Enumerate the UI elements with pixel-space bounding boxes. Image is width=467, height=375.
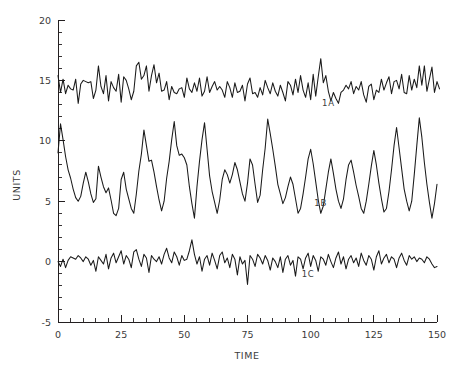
x-tick-label: 50: [178, 329, 190, 340]
figure-container: 0255075100125150 -505101520 1A1B1C UNITS…: [0, 0, 467, 375]
x-axis-ticks: [58, 315, 437, 322]
x-tick-label: 25: [115, 329, 127, 340]
series-label-1b: 1B: [314, 198, 327, 208]
series-label-1a: 1A: [322, 98, 335, 108]
y-axis-tick-labels: -505101520: [39, 15, 51, 328]
y-tick-label: 15: [39, 75, 51, 86]
x-tick-label: 100: [302, 329, 320, 340]
series-lines: [58, 59, 440, 285]
x-axis-tick-labels: 0255075100125150: [55, 329, 446, 340]
time-series-chart: 0255075100125150 -505101520 1A1B1C UNITS…: [0, 0, 467, 375]
x-tick-label: 150: [428, 329, 446, 340]
series-line-1a: [58, 59, 440, 104]
series-line-1b: [58, 118, 437, 218]
series-label-1c: 1C: [302, 269, 315, 279]
y-tick-label: -5: [42, 317, 51, 328]
y-tick-label: 20: [39, 15, 51, 26]
x-tick-label: 75: [241, 329, 253, 340]
series-labels: 1A1B1C: [302, 98, 335, 280]
series-line-1c: [58, 240, 437, 285]
x-tick-label: 125: [365, 329, 383, 340]
y-axis-ticks: [58, 20, 65, 322]
x-axis-title: TIME: [233, 350, 259, 361]
axis-spines: [58, 20, 437, 322]
y-tick-label: 10: [39, 135, 51, 146]
y-tick-label: 5: [45, 196, 51, 207]
x-tick-label: 0: [55, 329, 61, 340]
y-axis-title: UNITS: [11, 169, 22, 201]
y-tick-label: 0: [45, 256, 51, 267]
